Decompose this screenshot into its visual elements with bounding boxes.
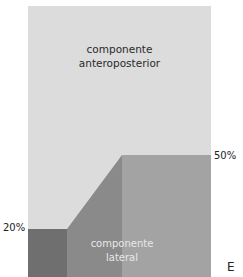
anteroposterior-label-line2: anteroposterior <box>28 56 211 70</box>
anteroposterior-label-line1: componente <box>28 42 211 56</box>
low-level-percent: 20% <box>3 222 25 233</box>
low-level-block <box>28 229 67 277</box>
lateral-label-line2: lateral <box>67 251 177 265</box>
lateral-label: componente lateral <box>67 237 177 265</box>
lateral-label-line1: componente <box>67 237 177 251</box>
high-level-percent: 50% <box>214 150 236 161</box>
anteroposterior-label: componente anteroposterior <box>28 42 211 70</box>
panel-letter: E <box>227 260 235 274</box>
